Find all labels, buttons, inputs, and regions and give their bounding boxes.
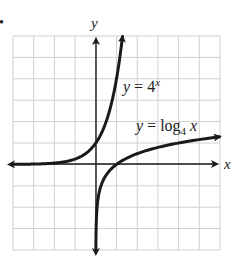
log-label-eq: =: [143, 117, 160, 134]
log-label-func: log: [160, 117, 180, 135]
exp-label-exponent: x: [154, 76, 160, 88]
log-label-arg: x: [186, 117, 197, 134]
y-axis-label: y: [89, 15, 98, 31]
exponential-curve-label: y = 4x: [121, 76, 160, 96]
graph-figure: • x y y = 4x y = log4 x: [0, 0, 233, 262]
logarithm-curve-label: y = log4 x: [134, 117, 197, 137]
exp-label-base: 4: [147, 78, 155, 95]
grid: [13, 36, 220, 250]
exp-label-eq: =: [130, 78, 147, 95]
bullet-marker: •: [0, 15, 4, 30]
x-axis-label: x: [223, 156, 231, 172]
